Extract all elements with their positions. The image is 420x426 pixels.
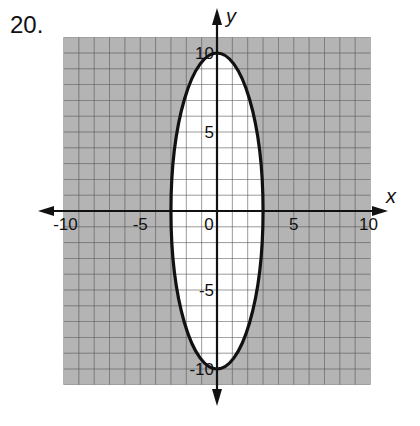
x-tick-label: 10: [359, 215, 378, 234]
y-tick-label: -5: [199, 281, 214, 300]
ellipse-inequality-graph: -10-50510105-5-10xy: [0, 0, 420, 426]
x-tick-label: -10: [53, 215, 78, 234]
x-tick-label: 5: [289, 215, 298, 234]
y-tick-label: 5: [205, 123, 214, 142]
y-axis-label: y: [224, 5, 237, 27]
x-tick-label: 0: [204, 215, 213, 234]
x-tick-label: -5: [133, 215, 148, 234]
y-tick-label: -10: [189, 360, 214, 379]
x-axis-label: x: [385, 185, 397, 207]
y-tick-label: 10: [195, 44, 214, 63]
